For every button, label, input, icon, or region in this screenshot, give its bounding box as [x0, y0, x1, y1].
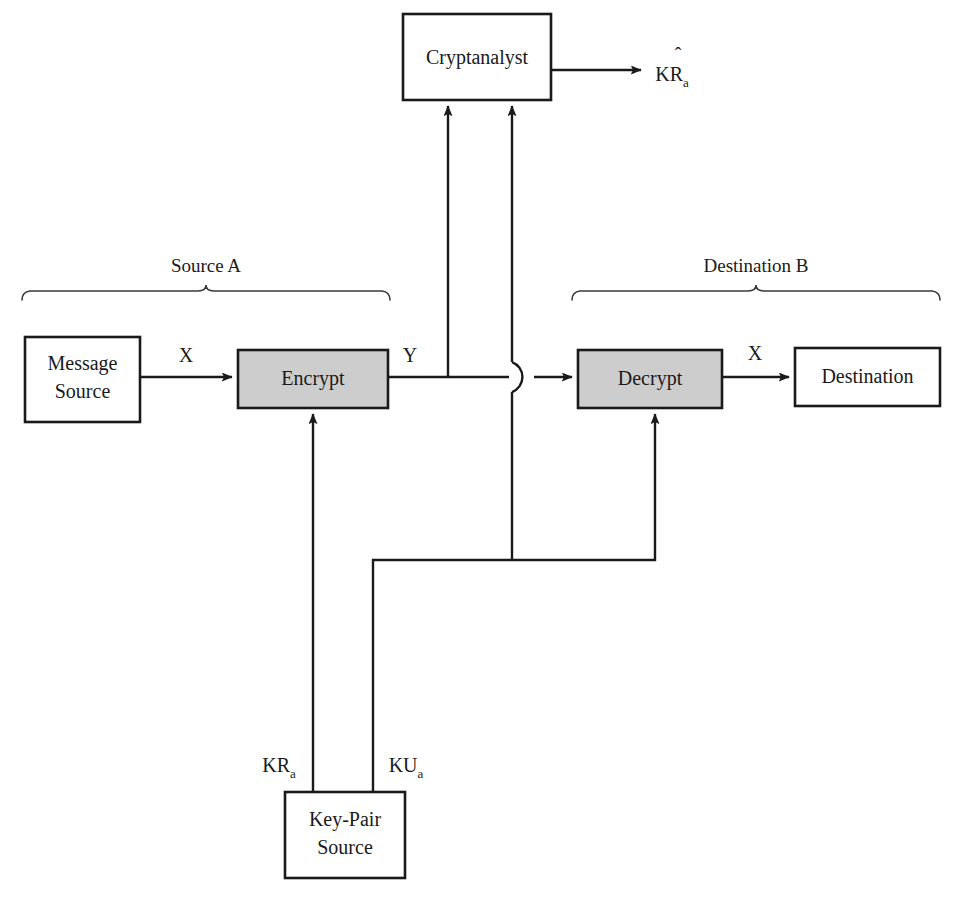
edge-label-estimated-key-base: KR	[655, 63, 683, 85]
brace-source-a	[22, 285, 390, 300]
cryptosystem-diagram: Message Source Encrypt Decrypt Destinati…	[0, 0, 962, 906]
edge-label-private-key: KRa	[262, 754, 296, 781]
edge-keypair-to-decrypt	[373, 414, 655, 792]
box-cryptanalyst-label: Cryptanalyst	[426, 46, 529, 69]
edge-label-public-key-subscript: a	[418, 766, 424, 781]
box-decrypt-label: Decrypt	[618, 367, 683, 390]
box-key-pair-source-label-line2: Source	[317, 836, 373, 858]
line-hop-bridge-icon	[512, 362, 522, 392]
edge-label-ciphertext: Y	[403, 344, 417, 366]
edge-label-estimated-key: KRa	[655, 63, 689, 90]
group-label-source-a: Source A	[171, 255, 241, 276]
box-message-source-label-line2: Source	[55, 380, 111, 402]
edge-label-public-key: KUa	[389, 754, 424, 781]
edge-label-private-key-base: KR	[262, 754, 290, 776]
box-encrypt-label: Encrypt	[281, 367, 345, 390]
edge-label-estimated-key-subscript: a	[683, 75, 689, 90]
box-key-pair-source-label-line1: Key-Pair	[309, 808, 382, 831]
group-label-destination-b: Destination B	[703, 255, 808, 276]
diagram-root: Message Source Encrypt Decrypt Destinati…	[0, 0, 962, 906]
edge-label-plaintext-in: X	[179, 344, 194, 366]
box-message-source-label-line1: Message	[48, 352, 118, 375]
estimated-key-hat-icon: ˆ	[675, 44, 682, 66]
brace-destination-b	[572, 285, 940, 300]
edge-label-public-key-base: KU	[389, 754, 418, 776]
box-destination-label: Destination	[821, 365, 913, 387]
edge-label-private-key-subscript: a	[290, 766, 296, 781]
edge-label-plaintext-out: X	[748, 342, 763, 364]
